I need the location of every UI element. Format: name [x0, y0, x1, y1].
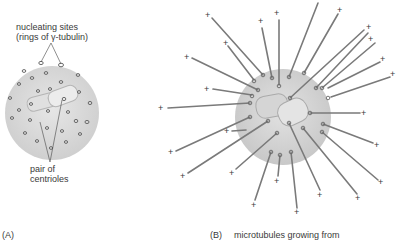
plus-end: + — [229, 168, 234, 178]
plus-end: + — [337, 5, 342, 15]
plus-end: + — [374, 140, 379, 150]
plus-end: + — [224, 126, 229, 136]
plus-end: + — [361, 108, 366, 118]
centrioles-label: pair of centrioles — [30, 164, 69, 184]
plus-end: + — [204, 84, 209, 94]
plus-end: + — [355, 193, 360, 203]
centrioles-line2: centrioles — [30, 174, 69, 184]
plus-end: + — [168, 147, 173, 157]
panel-b-tag: (B) — [210, 230, 222, 240]
plus-end: + — [223, 38, 228, 48]
plus-end: + — [184, 52, 189, 62]
plus-end: + — [274, 8, 279, 18]
plus-end: + — [368, 34, 373, 44]
plus-end: + — [158, 103, 163, 113]
plus-end: + — [366, 22, 371, 32]
plus-end: + — [251, 200, 256, 210]
plus-end: + — [390, 69, 395, 79]
plus-end: + — [274, 176, 279, 186]
panel-a-tag: (A) — [2, 230, 14, 240]
centrioles-line1: pair of — [30, 164, 69, 174]
plus-end: + — [317, 190, 322, 200]
panel-b-caption: microtubules growing from — [234, 230, 340, 240]
plus-end: + — [378, 177, 383, 187]
plus-end: + — [205, 10, 210, 20]
plus-end: + — [380, 54, 385, 64]
plus-end: + — [258, 16, 263, 26]
plus-end: + — [294, 207, 299, 217]
plus-end: + — [180, 171, 185, 181]
centrosome-a — [5, 43, 99, 162]
diagram-canvas — [0, 0, 401, 240]
